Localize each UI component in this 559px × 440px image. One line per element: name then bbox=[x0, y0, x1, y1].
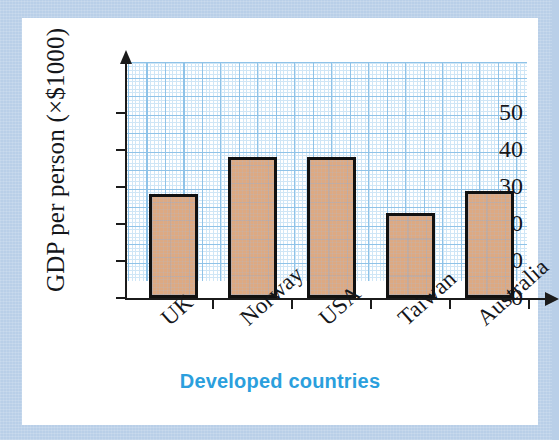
y-tick-label-50: 50 bbox=[477, 100, 523, 124]
y-axis-title: GDP per person (×$1000) bbox=[42, 52, 70, 292]
y-tick-10 bbox=[116, 260, 126, 262]
bar-usa bbox=[307, 157, 356, 298]
x-tick-3 bbox=[449, 299, 451, 309]
x-axis-title: Developed countries bbox=[22, 370, 538, 393]
y-tick-50 bbox=[116, 112, 126, 114]
y-tick-0 bbox=[116, 297, 126, 299]
y-tick-20 bbox=[116, 223, 126, 225]
y-tick-40 bbox=[116, 149, 126, 151]
x-axis-arrow-icon bbox=[545, 292, 559, 306]
x-tick-1 bbox=[291, 299, 293, 309]
y-tick-label-40: 40 bbox=[477, 137, 523, 161]
y-axis-line bbox=[125, 62, 127, 300]
x-tick-4 bbox=[528, 299, 530, 309]
y-tick-30 bbox=[116, 186, 126, 188]
plot-area: 01020304050 UKNorwayUSATaiwanAustralia bbox=[125, 62, 537, 300]
x-tick-2 bbox=[370, 299, 372, 309]
bar-uk bbox=[149, 194, 198, 298]
chart-card: GDP per person (×$1000) 01020304050 UKNo… bbox=[22, 18, 538, 425]
y-axis-arrow-icon bbox=[120, 50, 132, 64]
x-tick-0 bbox=[212, 299, 214, 309]
bar-norway bbox=[228, 157, 277, 298]
